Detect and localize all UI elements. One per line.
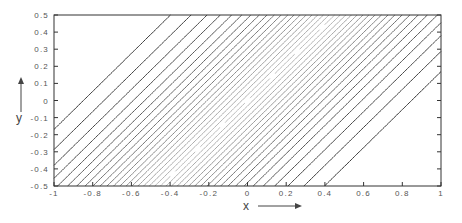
y-tick-label: 0.3 [34,45,49,54]
contour-line [275,23,441,186]
y-tick-label: -0.2 [30,131,49,140]
contour-line [54,15,191,150]
contour-line [144,15,318,186]
x-tick-label: -0.6 [122,189,141,198]
contour-line [304,51,441,186]
contour-line [93,15,267,186]
y-tick-label: -0.5 [30,182,49,191]
contour-lines [54,15,441,186]
x-tick-label: 0.4 [318,189,333,198]
contour-line [54,15,220,178]
x-tick-label: 0.2 [279,189,294,198]
contour-chart: -1-0.8-0.6-0.4-0.200.20.40.60.81 0.50.40… [0,0,462,223]
contour-line [177,15,351,186]
contour-line [149,15,323,186]
contour-line [172,15,346,186]
y-tick-label: 0.2 [34,62,49,71]
contour-line [54,15,207,165]
contour-line [325,72,442,186]
contour-line [120,15,294,186]
y-tick-label: -0.4 [30,165,49,174]
y-tick-label: -0.3 [30,148,49,157]
x-tick-label: -0.4 [161,189,180,198]
x-tick-label: 0.8 [395,189,410,198]
y-tick-label: 0.5 [34,11,49,20]
y-tick-label: 0 [43,97,49,106]
contour-line [68,15,242,186]
contour-line [126,15,300,186]
contour-line [253,15,427,186]
y-arrow-icon [18,77,24,112]
contour-line [288,36,441,186]
contour-line [201,15,375,186]
contour-line [195,15,369,186]
x-tick-label: 0.6 [356,189,371,198]
x-tick-label: -1 [49,189,59,198]
x-axis-label: x [243,199,249,213]
contour-line [132,15,306,186]
contour-line [189,15,363,186]
y-tick-label: 0.1 [34,79,49,88]
y-tick-label: 0.4 [34,28,49,37]
x-tick-label: -0.8 [83,189,102,198]
contour-line [54,15,171,129]
x-tick-label: -0.2 [200,189,219,198]
y-axis-label: y [16,111,22,125]
y-tick-label: -0.1 [30,114,49,123]
contour-line [228,15,402,186]
x-tick-label: 0 [245,189,251,198]
x-tick-label: 1 [438,189,444,198]
x-arrow-icon [258,203,302,209]
